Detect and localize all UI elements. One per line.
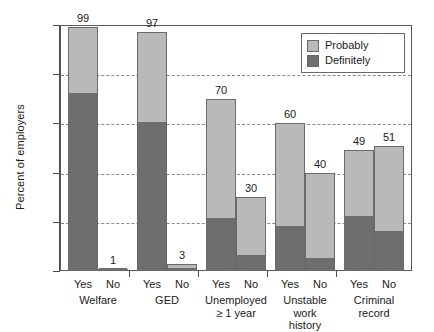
x-category-line: Unemployed (196, 294, 276, 307)
bar-ged-yes (137, 32, 167, 271)
x-separator-2 (198, 271, 199, 277)
legend: Probably Definitely (301, 33, 405, 73)
bar-value-label: 60 (265, 109, 315, 120)
y-tick-0 (53, 271, 59, 272)
x-category-line: record (334, 307, 414, 320)
x-label-no-3: No (302, 278, 338, 290)
bar-criminal-no (374, 146, 404, 271)
x-separator-4 (336, 271, 337, 277)
segment-probably (207, 100, 235, 221)
legend-swatch-definitely (307, 55, 319, 67)
x-label-no-0: No (95, 278, 131, 290)
x-label-no-4: No (371, 278, 407, 290)
segment-definitely (207, 218, 235, 270)
segment-probably (306, 174, 334, 260)
segment-probably (276, 124, 304, 227)
y-tick-100 (53, 25, 59, 26)
segment-definitely (168, 268, 196, 270)
legend-label-probably: Probably (325, 40, 368, 51)
segment-definitely (69, 93, 97, 270)
segment-definitely (138, 122, 166, 270)
segment-definitely (237, 255, 265, 270)
bar-value-label: 51 (364, 132, 414, 143)
x-separator-3 (267, 271, 268, 277)
bar-value-label: 70 (196, 85, 246, 96)
bar-unstable-yes (275, 123, 305, 271)
bar-value-label: 30 (226, 183, 276, 194)
x-category-line: ≥ 1 year (196, 307, 276, 320)
segment-probably (375, 147, 403, 233)
bar-ged-no (167, 264, 197, 271)
x-category-line: Unstable (265, 294, 345, 307)
bar-value-label: 40 (295, 159, 345, 170)
x-separator-1 (129, 271, 130, 277)
x-category-line: work (265, 307, 345, 320)
y-tick-40 (53, 173, 59, 174)
x-category-label: Criminalrecord (334, 294, 414, 319)
x-label-no-1: No (164, 278, 200, 290)
x-category-label: Unstableworkhistory (265, 294, 345, 332)
segment-definitely (306, 258, 334, 270)
segment-definitely (375, 231, 403, 270)
x-category-label: Unemployed≥ 1 year (196, 294, 276, 319)
x-category-line: Welfare (58, 294, 138, 307)
x-category-line: history (265, 319, 345, 332)
legend-label-definitely: Definitely (325, 55, 370, 66)
bar-welfare-yes (68, 27, 98, 271)
bar-welfare-no (98, 269, 128, 271)
x-label-no-2: No (233, 278, 269, 290)
segment-definitely (99, 268, 127, 270)
segment-probably (138, 33, 166, 124)
bar-criminal-yes (344, 150, 374, 271)
segment-probably (69, 28, 97, 94)
segment-definitely (276, 226, 304, 270)
x-category-label: GED (127, 294, 207, 307)
y-tick-60 (53, 123, 59, 124)
x-category-label: Welfare (58, 294, 138, 307)
legend-item-definitely: Definitely (307, 53, 399, 68)
x-category-line: GED (127, 294, 207, 307)
y-tick-20 (53, 222, 59, 223)
bar-unemployed-no (236, 197, 266, 271)
bar-value-label: 97 (127, 18, 177, 29)
legend-item-probably: Probably (307, 38, 399, 53)
x-category-line: Criminal (334, 294, 414, 307)
y-axis-title: Percent of employers (14, 104, 26, 210)
segment-probably (345, 151, 373, 217)
bar-value-label: 1 (88, 255, 138, 266)
bar-unstable-no (305, 173, 335, 271)
bar-value-label: 3 (157, 250, 207, 261)
segment-definitely (345, 216, 373, 270)
bar-value-label: 99 (58, 13, 108, 24)
y-tick-80 (53, 74, 59, 75)
segment-probably (237, 198, 265, 257)
legend-swatch-probably (307, 40, 319, 52)
